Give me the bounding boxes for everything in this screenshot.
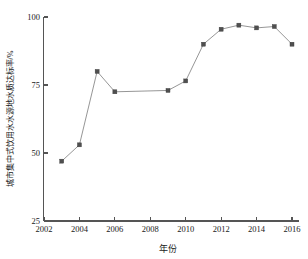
data-point-marker — [166, 88, 170, 92]
data-point-marker — [255, 26, 259, 30]
data-point-marker — [184, 79, 188, 83]
data-point-marker — [60, 159, 64, 163]
x-tick-label: 2006 — [106, 224, 123, 234]
data-point-marker — [201, 42, 205, 46]
data-point-marker — [113, 90, 117, 94]
y-tick-label: 50 — [32, 148, 41, 158]
series-line — [62, 25, 292, 161]
x-tick-label: 2008 — [142, 224, 159, 234]
chart-canvas: 255075100 200220042006200820102012201420… — [0, 0, 308, 259]
x-tick-label: 2014 — [248, 224, 266, 234]
data-point-marker — [237, 23, 241, 27]
x-tick-label: 2010 — [177, 224, 194, 234]
data-point-marker — [219, 27, 223, 31]
y-axis: 255075100 — [27, 12, 48, 226]
y-tick-label: 75 — [32, 80, 41, 90]
data-point-marker — [77, 143, 81, 147]
x-axis-title: 年份 — [159, 243, 177, 254]
x-tick-label: 2016 — [284, 224, 301, 234]
data-point-marker — [95, 69, 99, 73]
x-tick-label: 2012 — [213, 224, 230, 234]
x-tick-label: 2004 — [71, 224, 89, 234]
y-tick-label: 100 — [27, 12, 40, 22]
y-axis-title: 城市集中式饮用水水源地水质达标率/% — [5, 50, 15, 187]
x-axis: 20022004200620082010201220142016 — [36, 217, 301, 235]
x-tick-label: 2002 — [36, 224, 53, 234]
data-point-marker — [290, 42, 294, 46]
line-chart: 255075100 200220042006200820102012201420… — [0, 0, 308, 259]
data-point-marker — [272, 25, 276, 29]
data-series — [60, 23, 294, 163]
